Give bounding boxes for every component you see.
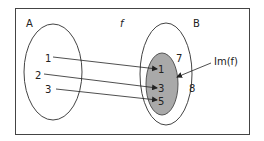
diagram-frame bbox=[16, 9, 250, 135]
domain-element-1: 1 bbox=[45, 53, 51, 64]
codomain-element-8: 8 bbox=[189, 83, 195, 94]
domain-element-3: 3 bbox=[45, 84, 51, 95]
function-diagram: A f B 1 2 3 1 3 5 7 8 Im(f) bbox=[0, 0, 264, 141]
set-b-label: B bbox=[193, 18, 200, 29]
codomain-element-7: 7 bbox=[176, 53, 182, 64]
set-a-label: A bbox=[26, 18, 33, 29]
function-label: f bbox=[120, 18, 125, 29]
image-element-5: 5 bbox=[158, 96, 164, 107]
domain-element-2: 2 bbox=[35, 70, 41, 81]
image-element-1: 1 bbox=[158, 64, 164, 75]
image-pointer-arrow bbox=[177, 63, 211, 77]
image-label: Im(f) bbox=[214, 56, 238, 67]
set-a-ellipse bbox=[24, 24, 82, 120]
image-element-3: 3 bbox=[158, 83, 164, 94]
